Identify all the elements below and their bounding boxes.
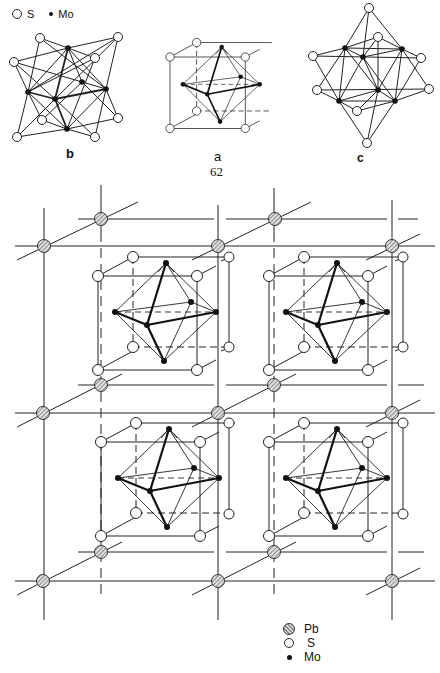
- legend-label-mo: Mo: [304, 650, 321, 664]
- molybdenum-atom-icon: [287, 655, 292, 660]
- panel-c-structure: [309, 4, 434, 148]
- atom-legend: Pb S Mo: [278, 622, 321, 664]
- panel-b-structure: [10, 33, 123, 142]
- lead-atom-icon: [283, 623, 295, 635]
- crystal-structure-diagram: [0, 0, 440, 673]
- legend-item-pb: Pb: [278, 622, 321, 636]
- pb-lattice-lines: [15, 185, 435, 620]
- page-number: 62: [210, 164, 223, 180]
- mo6s8-cluster-bottom-right: [264, 418, 404, 542]
- panel-c-label: c: [357, 151, 364, 165]
- sulfur-atom-icon: [284, 638, 294, 648]
- mo6s8-cluster-top-right: [264, 252, 404, 376]
- legend-item-s: S: [278, 636, 321, 650]
- mo6s8-cluster-bottom-left: [96, 418, 236, 542]
- panel-a-label: a: [214, 149, 221, 164]
- panel-b-label: b: [66, 146, 74, 161]
- mo6s8-cluster-top-left: [93, 252, 233, 376]
- legend-label-s: S: [307, 636, 315, 650]
- legend-label-pb: Pb: [304, 622, 319, 636]
- legend-item-mo: Mo: [278, 650, 321, 664]
- panel-a-structure: [166, 38, 272, 132]
